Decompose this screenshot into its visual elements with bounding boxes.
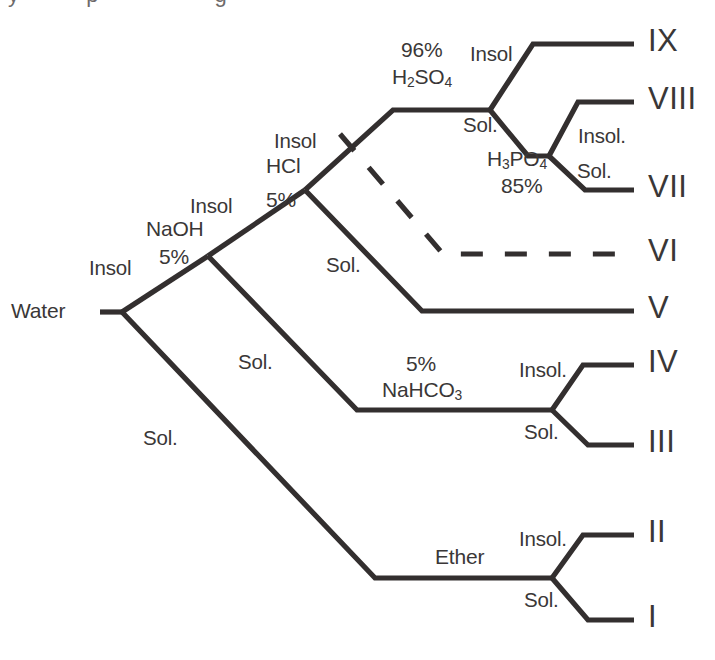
reagent-label-naoh-concentration: 5%: [159, 246, 189, 267]
h3po4-part-h: H: [487, 147, 502, 170]
nahco3-part-3: 3: [455, 387, 463, 403]
reagent-label-h3po4-name: H3PO4: [487, 148, 547, 171]
edge-label-ether-sol: Sol.: [524, 590, 559, 611]
edge-hcl-to-terminal-v: [305, 190, 634, 311]
edge-ether-to-terminal-i: [552, 578, 634, 620]
h2so4-part-so: SO: [414, 65, 444, 88]
edge-label-hcl-insol: Insol: [274, 131, 316, 152]
reagent-label-h2so4-concentration: 96%: [401, 39, 442, 60]
edge-label-naoh-insol: Insol: [190, 196, 232, 217]
edge-label-h3po4-sol: Sol.: [577, 161, 612, 182]
reagent-label-hcl-name: HCl: [266, 155, 300, 176]
h2so4-part-h: H: [392, 65, 407, 88]
reagent-label-h2so4-name: H2SO4: [392, 66, 452, 89]
edge-label-hcl-sol: Sol.: [326, 255, 361, 276]
terminal-label-iii: III: [648, 426, 675, 458]
edge-label-h2so4-sol: Sol.: [463, 115, 498, 136]
h2so4-part-4: 4: [444, 74, 452, 90]
reagent-label-naoh-name: NaOH: [146, 218, 204, 239]
edge-label-nahco3-insol: Insol.: [519, 360, 567, 381]
edge-label-ether-insol: Insol.: [519, 529, 567, 550]
edge-label-water-insol: Insol: [89, 258, 131, 279]
h3po4-part-po: PO: [509, 147, 539, 170]
reagent-label-nahco3-concentration: 5%: [406, 353, 436, 374]
nahco3-part-nahco: NaHCO: [382, 378, 455, 401]
terminal-label-v: V: [648, 292, 669, 324]
node-label-water: Water: [11, 300, 65, 321]
edge-water-to-ether: [122, 312, 552, 578]
terminal-label-vii: VII: [648, 171, 687, 203]
reagent-label-h3po4-concentration: 85%: [501, 175, 542, 196]
terminal-label-viii: VIII: [648, 83, 697, 115]
terminal-label-ii: II: [648, 516, 666, 548]
edge-label-naoh-sol: Sol.: [143, 428, 178, 449]
reagent-label-hcl-concentration: 5%: [266, 189, 296, 210]
edge-nahco3-to-terminal-iii: [552, 410, 634, 445]
terminal-label-vi: VI: [648, 235, 678, 267]
edge-label-h3po4-insol: Insol.: [578, 126, 626, 147]
terminal-label-ix: IX: [648, 25, 678, 57]
tree-branches-svg: [0, 0, 715, 660]
h3po4-part-4: 4: [539, 156, 547, 172]
reagent-label-nahco3-name: NaHCO3: [382, 379, 462, 402]
edge-label-water-sol: Sol.: [238, 352, 273, 373]
edge-label-nahco3-sol: Sol.: [524, 422, 559, 443]
edge-hcl-to-terminal-vi-dashed: [340, 134, 632, 254]
solubility-classification-diagram: y p g: [0, 0, 715, 660]
terminal-label-iv: IV: [648, 346, 678, 378]
reagent-label-ether-name: Ether: [435, 546, 484, 567]
edge-naoh-to-nahco3: [208, 256, 552, 410]
edge-label-h2so4-insol: Insol: [470, 44, 512, 65]
terminal-label-i: I: [648, 601, 657, 633]
